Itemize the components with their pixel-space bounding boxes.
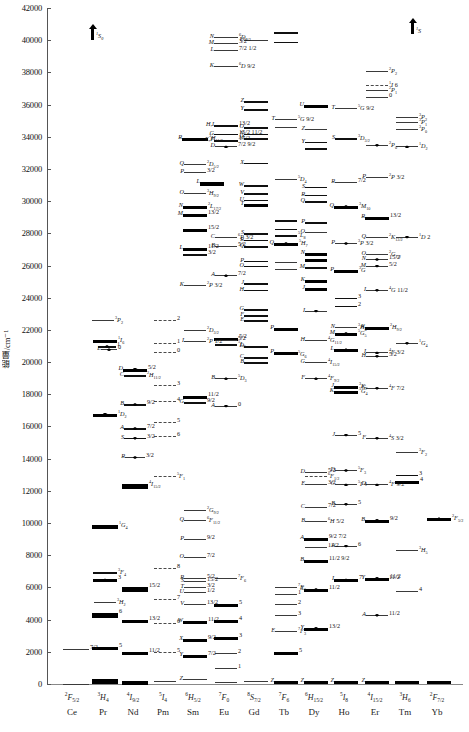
level-term-label: 3 — [298, 610, 301, 616]
level-term-label: 15/2 — [149, 582, 160, 588]
level-bar — [244, 200, 268, 202]
level-term-label: 3 — [239, 632, 242, 638]
y-tick-label: 26000 — [0, 262, 42, 271]
dieke-diagram: 能量/cm⁻¹ 42000400003800036000340003200030… — [0, 0, 469, 732]
level-bar — [335, 138, 357, 140]
level-bar — [366, 90, 388, 91]
y-tick-label: 16000 — [0, 422, 42, 431]
level-letter: S — [325, 134, 335, 140]
x-axis-line — [47, 684, 463, 685]
up-arrow-yb-1s — [411, 22, 414, 34]
level-letter: E — [234, 316, 244, 322]
level-term-label: 5F3 — [358, 465, 366, 477]
level-term-label: 3P0 — [419, 124, 427, 136]
level-term-label: 3 — [177, 380, 180, 386]
level-bar — [154, 320, 176, 321]
level-term-label: 0 — [177, 347, 180, 353]
level-term-label: 13/2 — [390, 212, 401, 218]
level-bar — [305, 362, 327, 363]
level-term-label: 5 — [119, 642, 122, 648]
y-tick-label: 12000 — [0, 487, 42, 496]
level-letter: D — [234, 342, 244, 348]
level-term-label: 1G4 — [119, 520, 128, 532]
level-bar — [183, 214, 207, 217]
level-term-label: 7/2 — [208, 650, 216, 656]
level-letter: A — [325, 542, 335, 548]
level-letter: A — [114, 424, 124, 430]
level-term-label: 5G 9/2 — [298, 114, 314, 122]
level-bar — [396, 550, 418, 551]
level-bar — [365, 327, 389, 330]
level-term-label: 13/2 — [208, 209, 219, 215]
level-bar — [244, 362, 268, 364]
level-bar — [122, 681, 148, 686]
level-bar — [305, 253, 327, 256]
level-bar — [275, 220, 297, 222]
y-tick — [47, 137, 51, 138]
level-term-label: 7/2 — [238, 270, 246, 276]
level-letter: P — [264, 324, 274, 330]
level-letter: C — [295, 503, 305, 509]
level-term-label: 11/2 — [390, 573, 401, 579]
level-term-label: 4 — [239, 615, 242, 621]
y-tick — [47, 233, 51, 234]
level-bar — [154, 476, 176, 477]
level-bar — [366, 85, 388, 86]
level-letter: Z — [234, 97, 244, 103]
level-bar — [365, 681, 389, 684]
level-term-label: 5G 9/2 — [358, 103, 374, 111]
level-bar — [305, 521, 327, 522]
level-letter: K — [324, 387, 334, 393]
level-term-label: 11/2 — [329, 584, 340, 590]
level-letter: O — [174, 553, 184, 559]
level-letter: O — [295, 228, 305, 234]
level-letter: R — [355, 213, 365, 219]
level-letter: P — [295, 218, 305, 224]
level-bar — [184, 604, 206, 605]
level-term-label: 5 — [177, 417, 180, 423]
level-bar — [184, 341, 206, 342]
level-bar — [305, 280, 327, 283]
level-bar — [124, 375, 146, 377]
level-letter: Q — [264, 239, 274, 245]
y-tick — [47, 40, 51, 41]
level-bar — [215, 682, 237, 683]
level-bar — [184, 581, 206, 582]
level-term-label: 6D 9/2 — [239, 61, 255, 69]
level-bar — [184, 510, 206, 511]
level-letter: B — [205, 242, 215, 248]
level-term-label: 13/2 — [207, 599, 218, 605]
level-letter: W — [234, 181, 244, 187]
y-tick-label: 4000 — [0, 616, 42, 625]
level-bar — [184, 539, 206, 540]
level-letter: Q — [295, 197, 305, 203]
level-bar — [244, 309, 268, 311]
level-letter: U — [174, 588, 184, 594]
level-term-label: 9/2 7/2 — [329, 533, 346, 539]
level-letter: R — [325, 178, 335, 184]
level-letter: Q — [234, 242, 244, 248]
level-bar — [184, 578, 206, 579]
level-bar — [274, 352, 298, 355]
level-bar — [305, 232, 327, 233]
level-bar — [427, 681, 451, 684]
level-letter: M — [234, 134, 244, 140]
level-letter: K — [204, 62, 214, 68]
level-bar — [183, 396, 207, 399]
y-tick — [47, 201, 51, 202]
level-term-label: 3P2 — [115, 315, 123, 327]
level-bar — [244, 163, 268, 165]
y-tick-label: 24000 — [0, 294, 42, 303]
level-bar — [215, 668, 237, 669]
level-letter: N — [295, 249, 305, 255]
level-bar — [183, 639, 207, 642]
y-tick-label: 42000 — [0, 4, 42, 13]
level-term-label: 3 — [358, 293, 361, 299]
level-letter: H — [234, 286, 244, 292]
level-term-label: 11/2 9/2 — [329, 555, 349, 561]
level-bar — [183, 229, 207, 232]
level-letter: L — [190, 178, 200, 184]
level-letter: P — [174, 535, 184, 541]
level-bar — [244, 320, 268, 322]
level-bar — [154, 568, 176, 569]
